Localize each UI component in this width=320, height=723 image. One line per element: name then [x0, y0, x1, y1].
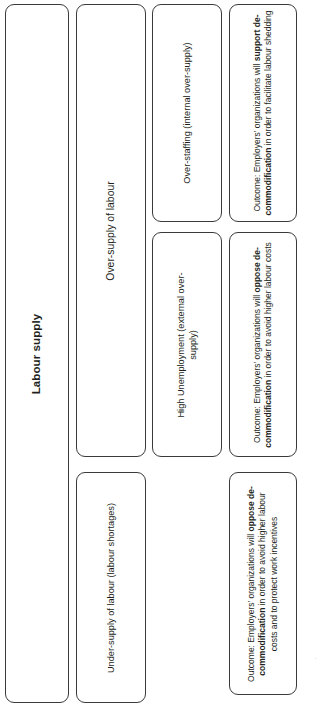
node-high-unemployment-label: High Unemployment (external over-supply) [175, 270, 199, 420]
node-outcome-oppose-incentives-text: Outcome: Employers’ organizations will o… [246, 484, 280, 684]
node-over-supply-of-labour: Over-supply of labour [76, 4, 146, 457]
node-over-supply-of-labour-label: Over-supply of labour [104, 9, 118, 453]
node-outcome-support-de-commodification: Outcome: Employers’ organizations will s… [229, 4, 297, 222]
diagram-canvas: Labour supply Over-supply of labour Unde… [0, 0, 319, 723]
node-labour-supply: Labour supply [5, 4, 69, 703]
node-outcome-oppose-labour-costs: Outcome: Employers’ organizations will o… [229, 232, 297, 457]
node-under-supply-of-labour: Under-supply of labour (labour shortages… [76, 472, 146, 703]
outcome-prefix: Outcome: Employers’ organizations will [252, 292, 262, 442]
node-under-supply-of-labour-label: Under-supply of labour (labour shortages… [105, 477, 117, 699]
node-high-unemployment: High Unemployment (external over-supply) [152, 232, 222, 457]
outcome-suffix: in order to facilitate labour shedding [263, 10, 273, 147]
node-outcome-support-text: Outcome: Employers’ organizations will s… [252, 9, 274, 217]
caption-fragment-text: · [311, 604, 320, 716]
outcome-prefix: Outcome: Employers’ organizations will [246, 531, 256, 681]
node-outcome-oppose-costs-text: Outcome: Employers’ organizations will o… [252, 237, 274, 452]
node-over-staffing-label: Over-staffing (internal over-supply) [181, 8, 193, 218]
outcome-prefix: Outcome: Employers’ organizations will [252, 61, 262, 211]
node-labour-supply-label: Labour supply [29, 9, 44, 699]
caption-fragment: · [309, 604, 319, 716]
outcome-suffix: in order to avoid higher labour costs [263, 242, 273, 380]
node-over-staffing: Over-staffing (internal over-supply) [152, 4, 222, 222]
node-outcome-oppose-work-incentives: Outcome: Employers’ organizations will o… [229, 472, 297, 695]
